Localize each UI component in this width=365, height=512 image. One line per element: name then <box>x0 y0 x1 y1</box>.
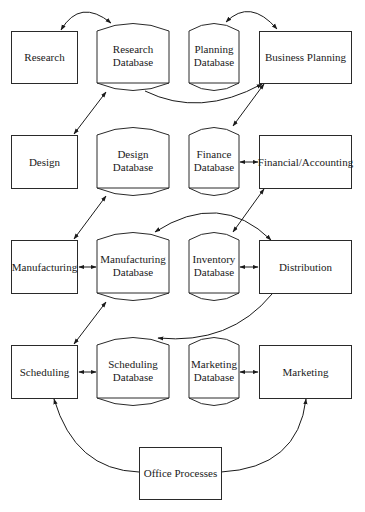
process-business-planning: Business Planning <box>259 31 352 84</box>
database-label-line1: Manufacturing <box>100 253 165 266</box>
database-label-line2: Database <box>113 56 153 69</box>
database-scheduling: Scheduling Database <box>97 351 169 391</box>
database-label-line2: Database <box>113 371 153 384</box>
database-label-line1: Research <box>113 43 153 56</box>
process-label: Marketing <box>283 366 329 379</box>
database-label-line2: Database <box>194 161 234 174</box>
process-marketing: Marketing <box>259 345 352 399</box>
process-label: Scheduling <box>20 366 70 379</box>
database-label-line2: Database <box>113 266 153 279</box>
process-label: Business Planning <box>265 51 346 64</box>
process-label: Distribution <box>279 261 332 274</box>
database-finance: Finance Database <box>189 141 239 181</box>
process-label: Office Processes <box>144 467 217 480</box>
connector-design-researchdb <box>74 92 106 134</box>
process-label: Research <box>24 51 64 64</box>
database-planning: Planning Database <box>189 36 239 76</box>
database-label-line2: Database <box>194 266 234 279</box>
process-scheduling: Scheduling <box>11 345 78 399</box>
database-label-line2: Database <box>194 56 234 69</box>
connector-office-scheduling <box>54 399 139 472</box>
connector-research-researchdb <box>61 12 111 30</box>
process-distribution: Distribution <box>259 240 352 294</box>
process-office-processes: Office Processes <box>139 447 222 500</box>
connector-office-marketing <box>221 399 306 472</box>
database-label-line1: Marketing <box>191 358 237 371</box>
connector-designdb-manufacturing <box>74 196 106 239</box>
process-manufacturing: Manufacturing <box>11 240 78 294</box>
database-research: Research Database <box>97 36 169 76</box>
connector-manufacturingdb-scheduling <box>74 302 106 344</box>
process-label: Financial/Accounting <box>258 156 353 169</box>
database-label-line1: Scheduling <box>108 358 158 371</box>
process-label: Manufacturing <box>12 261 77 274</box>
database-label-line2: Database <box>194 371 234 384</box>
process-financial-accounting: Financial/Accounting <box>259 135 352 189</box>
database-label-line2: Database <box>113 161 153 174</box>
database-inventory: Inventory Database <box>189 246 239 286</box>
database-label-line1: Planning <box>194 43 233 56</box>
connector-planningdb-businessplanning <box>226 12 277 29</box>
process-research: Research <box>11 31 78 84</box>
process-label: Design <box>29 156 60 169</box>
connector-financial-inventorydb <box>233 189 264 232</box>
database-label-line1: Finance <box>197 148 232 161</box>
database-manufacturing: Manufacturing Database <box>95 246 171 286</box>
database-label-line1: Design <box>117 148 148 161</box>
database-label-line1: Inventory <box>193 253 236 266</box>
database-design: Design Database <box>97 141 169 181</box>
process-design: Design <box>11 135 78 189</box>
database-marketing: Marketing Database <box>187 351 241 391</box>
